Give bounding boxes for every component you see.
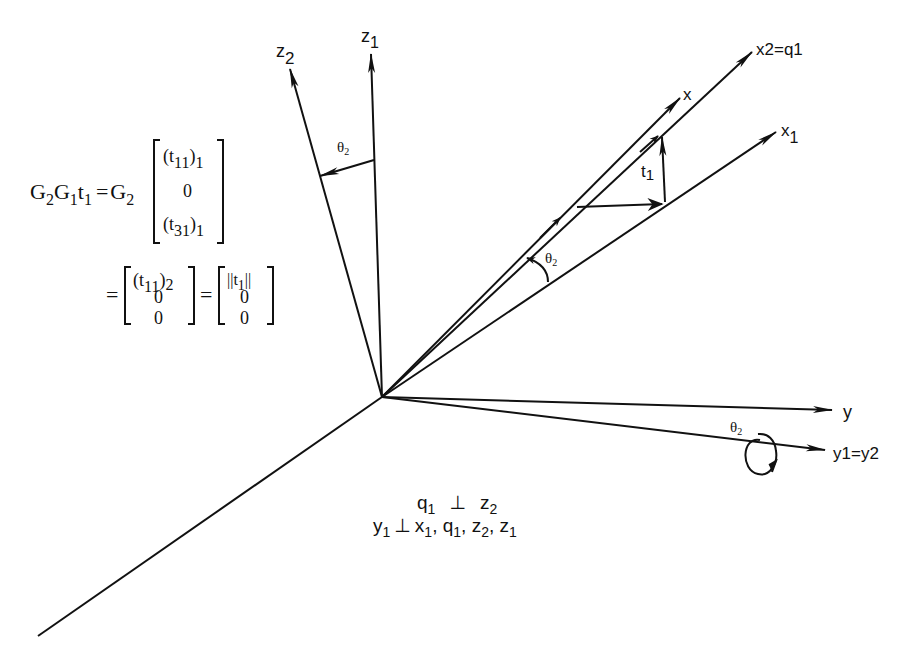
x1-label: x1 [781, 121, 799, 146]
matrix1-row2: 0 [183, 181, 192, 201]
z1-axis [371, 54, 382, 397]
caption-line1: q1⊥z2 [417, 492, 497, 517]
z2-label: z2 [276, 41, 294, 68]
matrix2-row2: 0 [154, 287, 163, 307]
matrix2-right-bracket [188, 267, 194, 324]
z2-axis [290, 69, 382, 397]
x-label: x [683, 85, 692, 104]
matrix1-left-bracket [154, 140, 160, 243]
theta2-y-label: θ2 [730, 419, 742, 437]
matrix3-row2: 0 [240, 287, 249, 307]
matrix2-left-bracket [125, 267, 131, 324]
negative-axis-line [38, 397, 382, 636]
equals-sign-2: = [106, 282, 118, 307]
matrix3-row3: 0 [240, 308, 249, 328]
y1-y2-label: y1=y2 [833, 444, 879, 463]
theta2-z-arrow [320, 160, 374, 176]
matrix1-right-bracket [217, 140, 223, 243]
caption-line2: y1⊥x1, q1, z2, z1 [373, 515, 517, 540]
x1-axis [382, 132, 776, 397]
z1-label: z1 [361, 26, 379, 51]
y1-y2-axis [382, 397, 825, 450]
x2-q1-axis [382, 52, 752, 397]
y-label: y [843, 402, 852, 422]
x2-q1-label: x2=q1 [756, 40, 803, 59]
x-axis [382, 98, 680, 397]
rotation-diagram: z2 z1 x x2=q1 x1 y y1=y2 t1 θ2 θ2 θ2 G2G… [0, 0, 916, 653]
equals-sign-3: = [200, 282, 212, 307]
equation-lhs: G2G1t1=G2 [30, 179, 134, 208]
matrix1-row1: (t11)1 [163, 146, 203, 171]
matrix3-left-bracket [219, 267, 225, 324]
matrix2-row3: 0 [154, 308, 163, 328]
theta2-z-label: θ2 [337, 139, 349, 157]
t1-label: t1 [641, 162, 654, 183]
matrix3-right-bracket [267, 267, 273, 324]
x2-axis-mid-arrow [640, 136, 658, 152]
y-axis [382, 397, 832, 410]
matrix1-row3: (t31)1 [163, 214, 204, 239]
theta2-x-label: θ2 [545, 250, 557, 268]
t1-vector [662, 137, 665, 202]
